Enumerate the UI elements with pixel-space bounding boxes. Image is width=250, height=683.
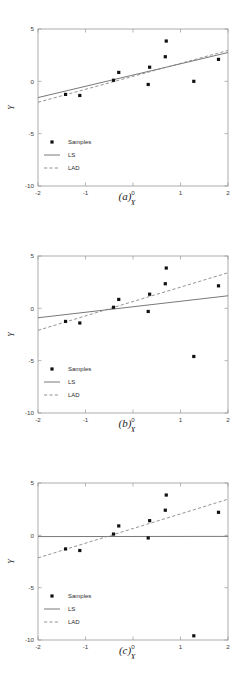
legend-lad-label: LAD bbox=[68, 392, 80, 398]
y-tick-label: 0 bbox=[31, 532, 35, 539]
sample-point bbox=[165, 266, 168, 269]
sample-point bbox=[147, 310, 150, 313]
sample-point bbox=[217, 511, 220, 514]
y-tick-label: -5 bbox=[28, 357, 34, 364]
legend-ls-label: LS bbox=[68, 379, 75, 385]
y-tick-label: 0 bbox=[31, 305, 35, 312]
sample-point bbox=[64, 320, 67, 323]
panel-c: -2-1012-10-505XYSamplesLSLAD (c) bbox=[0, 454, 250, 681]
sample-point bbox=[112, 79, 115, 82]
legend-samples-label: Samples bbox=[68, 593, 91, 599]
sample-point bbox=[64, 547, 67, 550]
legend-ls-label: LS bbox=[68, 152, 75, 158]
sample-point bbox=[164, 282, 167, 285]
plot-b: -2-1012-10-505XYSamplesLSLAD bbox=[0, 227, 250, 432]
legend-samples-marker bbox=[50, 367, 53, 370]
legend-lad-label: LAD bbox=[68, 619, 80, 625]
legend-samples-label: Samples bbox=[68, 366, 91, 372]
sample-point bbox=[117, 524, 120, 527]
sample-point bbox=[112, 306, 115, 309]
sample-point bbox=[148, 519, 151, 522]
sample-point bbox=[165, 493, 168, 496]
y-tick-label: -10 bbox=[25, 409, 35, 416]
sample-point bbox=[147, 83, 150, 86]
figure-container: -2-1012-10-505XYSamplesLSLAD (a) -2-1012… bbox=[0, 0, 250, 683]
sample-point bbox=[147, 536, 150, 539]
y-axis-label: Y bbox=[7, 558, 16, 564]
sample-point bbox=[192, 355, 195, 358]
sample-point bbox=[117, 71, 120, 74]
sample-point bbox=[117, 298, 120, 301]
subcaption-b: (b) bbox=[0, 417, 250, 429]
ls-regression-line bbox=[38, 296, 228, 318]
legend-samples-marker bbox=[50, 594, 53, 597]
sample-point bbox=[78, 94, 81, 97]
sample-point bbox=[217, 284, 220, 287]
y-tick-label: -10 bbox=[25, 182, 35, 189]
legend-samples-marker bbox=[50, 140, 53, 143]
panel-a: -2-1012-10-505XYSamplesLSLAD (a) bbox=[0, 0, 250, 227]
y-axis-label: Y bbox=[7, 104, 16, 110]
y-tick-label: -5 bbox=[28, 130, 34, 137]
subcaption-c: (c) bbox=[0, 644, 250, 656]
sample-point bbox=[217, 58, 220, 61]
sample-point bbox=[192, 634, 195, 637]
legend-lad-label: LAD bbox=[68, 165, 80, 171]
sample-point bbox=[164, 509, 167, 512]
sample-point bbox=[78, 549, 81, 552]
sample-point bbox=[148, 293, 151, 296]
y-tick-label: 5 bbox=[31, 252, 35, 259]
sample-point bbox=[78, 321, 81, 324]
y-tick-label: 5 bbox=[31, 25, 35, 32]
legend-samples-label: Samples bbox=[68, 139, 91, 145]
sample-point bbox=[148, 66, 151, 69]
y-axis-label: Y bbox=[7, 331, 16, 337]
plot-a: -2-1012-10-505XYSamplesLSLAD bbox=[0, 0, 250, 205]
sample-point bbox=[165, 39, 168, 42]
sample-point bbox=[64, 93, 67, 96]
legend-ls-label: LS bbox=[68, 606, 75, 612]
panel-b: -2-1012-10-505XYSamplesLSLAD (b) bbox=[0, 227, 250, 454]
plot-frame bbox=[38, 483, 228, 640]
plot-c: -2-1012-10-505XYSamplesLSLAD bbox=[0, 454, 250, 659]
y-tick-label: 0 bbox=[31, 78, 35, 85]
sample-point bbox=[164, 55, 167, 58]
sample-point bbox=[192, 80, 195, 83]
plot-frame bbox=[38, 256, 228, 413]
y-tick-label: -10 bbox=[25, 636, 35, 643]
subcaption-a: (a) bbox=[0, 190, 250, 202]
y-tick-label: 5 bbox=[31, 479, 35, 486]
sample-point bbox=[112, 532, 115, 535]
ls-regression-line bbox=[38, 53, 228, 98]
plot-frame bbox=[38, 29, 228, 186]
y-tick-label: -5 bbox=[28, 584, 34, 591]
